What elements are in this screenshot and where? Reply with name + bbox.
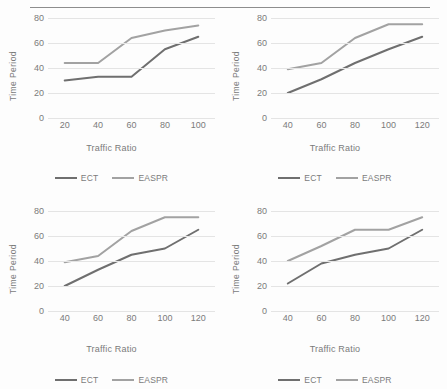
plot-area <box>271 10 439 138</box>
y-axis-tick-label: 60 <box>34 38 44 48</box>
grid-line <box>271 211 439 212</box>
chart-legend: ECT EASPR <box>0 173 223 183</box>
x-axis-tick-label: 40 <box>93 120 103 130</box>
y-axis-tick-label: 80 <box>257 206 267 216</box>
plot-area-wrapper: Time Period 020406080 406080100120 Traff… <box>0 203 223 331</box>
legend-swatch-ect-icon <box>55 177 77 179</box>
chart-legend: ECT EASPR <box>223 375 447 385</box>
legend-item-ect: ECT <box>55 173 99 183</box>
grid-line <box>271 93 439 94</box>
x-axis-tick-label: 60 <box>126 120 136 130</box>
plot-area-wrapper: Time Period 020406080 406080100120 Traff… <box>223 10 447 138</box>
x-axis-tick-label: 100 <box>191 120 206 130</box>
legend-label-easpr: EASPR <box>138 173 168 183</box>
x-axis-tick-label: 60 <box>93 313 103 323</box>
chart-panel-top-left: Time Period 020406080 20406080100 Traffi… <box>0 10 223 195</box>
grid-line <box>48 236 215 237</box>
chart-grid: Time Period 020406080 20406080100 Traffi… <box>0 10 447 389</box>
plot-area-wrapper: Time Period 020406080 406080100120 Traff… <box>223 203 447 331</box>
legend-swatch-easpr-icon <box>112 177 134 179</box>
y-axis-tick-label: 80 <box>34 206 44 216</box>
y-axis-ticks: 020406080 <box>241 203 267 331</box>
y-axis-tick-label: 80 <box>34 13 44 23</box>
x-axis-tick-label: 100 <box>381 120 396 130</box>
chart-panel-bottom-right: Time Period 020406080 406080100120 Traff… <box>223 195 447 389</box>
x-axis-title: Traffic Ratio <box>223 143 447 153</box>
y-axis-tick-label: 20 <box>257 281 267 291</box>
grid-line <box>48 286 215 287</box>
series-line-ect <box>288 230 422 284</box>
y-axis-tick-label: 60 <box>257 38 267 48</box>
legend-item-ect: ECT <box>278 375 322 385</box>
x-axis-tick-label: 20 <box>60 120 70 130</box>
plot-area <box>48 203 215 331</box>
grid-line <box>48 261 215 262</box>
y-axis-tick-label: 40 <box>257 63 267 73</box>
legend-item-ect: ECT <box>55 375 99 385</box>
x-axis-tick-label: 120 <box>415 313 430 323</box>
grid-line <box>48 68 215 69</box>
grid-line <box>48 311 215 312</box>
plot-area <box>271 203 439 331</box>
x-axis-ticks-wrapper: 406080100120 <box>0 313 223 329</box>
legend-item-easpr: EASPR <box>336 375 392 385</box>
x-axis-tick-label: 80 <box>350 313 360 323</box>
x-axis-tick-label: 40 <box>283 120 293 130</box>
grid-line <box>271 18 439 19</box>
y-axis-tick-label: 20 <box>257 88 267 98</box>
figure-page: Time Period 020406080 20406080100 Traffi… <box>0 0 447 389</box>
x-axis-ticks: 406080100120 <box>271 120 439 134</box>
x-axis-tick-label: 40 <box>283 313 293 323</box>
y-axis-ticks: 020406080 <box>18 10 44 138</box>
grid-line <box>271 68 439 69</box>
grid-line <box>271 236 439 237</box>
y-axis-ticks: 020406080 <box>18 203 44 331</box>
plot-area-wrapper: Time Period 020406080 20406080100 Traffi… <box>0 10 223 138</box>
chart-legend: ECT EASPR <box>0 375 223 385</box>
y-axis-tick-label: 60 <box>257 231 267 241</box>
y-axis-tick-label: 40 <box>34 256 44 266</box>
x-axis-ticks-wrapper: 20406080100 <box>0 120 223 136</box>
x-axis-ticks: 20406080100 <box>48 120 215 134</box>
legend-item-easpr: EASPR <box>112 375 168 385</box>
legend-swatch-ect-icon <box>55 379 77 381</box>
x-axis-ticks: 406080100120 <box>48 313 215 327</box>
legend-label-easpr: EASPR <box>362 375 392 385</box>
grid-line <box>271 261 439 262</box>
x-axis-title: Traffic Ratio <box>0 344 223 354</box>
legend-item-ect: ECT <box>278 173 322 183</box>
x-axis-tick-label: 100 <box>381 313 396 323</box>
grid-line <box>48 211 215 212</box>
x-axis-title: Traffic Ratio <box>0 143 223 153</box>
x-axis-ticks-wrapper: 406080100120 <box>223 120 447 136</box>
x-axis-ticks-wrapper: 406080100120 <box>223 313 447 329</box>
legend-label-ect: ECT <box>81 173 99 183</box>
grid-line <box>271 311 439 312</box>
legend-swatch-ect-icon <box>278 379 300 381</box>
x-axis-tick-label: 40 <box>60 313 70 323</box>
y-axis-tick-label: 80 <box>257 13 267 23</box>
y-axis-tick-label: 60 <box>34 231 44 241</box>
grid-line <box>271 43 439 44</box>
header-rule <box>30 7 430 8</box>
chart-legend: ECT EASPR <box>223 173 447 183</box>
y-axis-ticks: 020406080 <box>241 10 267 138</box>
legend-label-easpr: EASPR <box>138 375 168 385</box>
legend-label-ect: ECT <box>81 375 99 385</box>
y-axis-tick-label: 40 <box>34 63 44 73</box>
chart-panel-top-right: Time Period 020406080 406080100120 Traff… <box>223 10 447 195</box>
x-axis-tick-label: 60 <box>316 120 326 130</box>
grid-line <box>48 93 215 94</box>
grid-line <box>271 286 439 287</box>
y-axis-tick-label: 40 <box>257 256 267 266</box>
x-axis-tick-label: 80 <box>126 313 136 323</box>
x-axis-tick-label: 80 <box>160 120 170 130</box>
plot-area <box>48 10 215 138</box>
legend-label-ect: ECT <box>304 375 322 385</box>
legend-swatch-easpr-icon <box>336 177 358 179</box>
grid-line <box>48 43 215 44</box>
x-axis-title: Traffic Ratio <box>223 344 447 354</box>
legend-item-easpr: EASPR <box>336 173 392 183</box>
x-axis-tick-label: 100 <box>157 313 172 323</box>
y-axis-tick-label: 20 <box>34 281 44 291</box>
